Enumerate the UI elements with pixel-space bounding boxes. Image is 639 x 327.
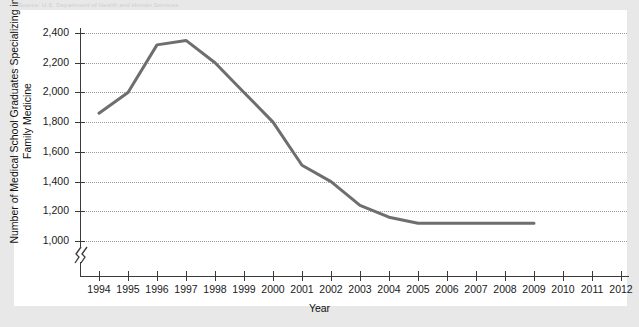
series-line-family-medicine xyxy=(99,40,534,223)
y-axis-title: Number of Medical School Graduates Speci… xyxy=(8,0,34,246)
data-line-series xyxy=(0,0,639,327)
chart-page: Source: U.S. Department of Health and Hu… xyxy=(0,0,639,327)
x-axis-title: Year xyxy=(0,302,639,314)
